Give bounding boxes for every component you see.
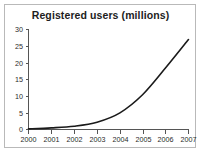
- x-tick-label-2003: 2003: [90, 135, 106, 144]
- x-tick-label-2007: 2007: [181, 135, 197, 144]
- x-axis-ticks: [29, 130, 189, 134]
- x-tick-label-2001: 2001: [44, 135, 60, 144]
- y-tick-label-30: 30: [15, 25, 23, 34]
- x-tick-label-2005: 2005: [136, 135, 152, 144]
- y-tick-label-25: 25: [15, 42, 23, 51]
- y-tick-label-0: 0: [19, 125, 23, 134]
- x-tick-label-2000: 2000: [21, 135, 37, 144]
- plot-area: 30 25 20 15 10 5 0 2000 2001 2002 2003 2…: [0, 0, 201, 153]
- x-tick-label-2004: 2004: [113, 135, 129, 144]
- y-tick-label-5: 5: [19, 109, 23, 118]
- y-tick-label-15: 15: [15, 75, 23, 84]
- chart-figure: Registered users (millions) 30 25 20 15 …: [0, 0, 201, 153]
- y-tick-label-20: 20: [15, 59, 23, 68]
- x-axis-tick-labels: 2000 2001 2002 2003 2004 2005 2006 2007: [21, 135, 197, 144]
- y-axis-tick-labels: 30 25 20 15 10 5 0: [15, 25, 23, 134]
- data-series-line-registered-users: [29, 40, 189, 129]
- x-tick-label-2006: 2006: [158, 135, 174, 144]
- y-tick-label-10: 10: [15, 92, 23, 101]
- x-tick-label-2002: 2002: [67, 135, 83, 144]
